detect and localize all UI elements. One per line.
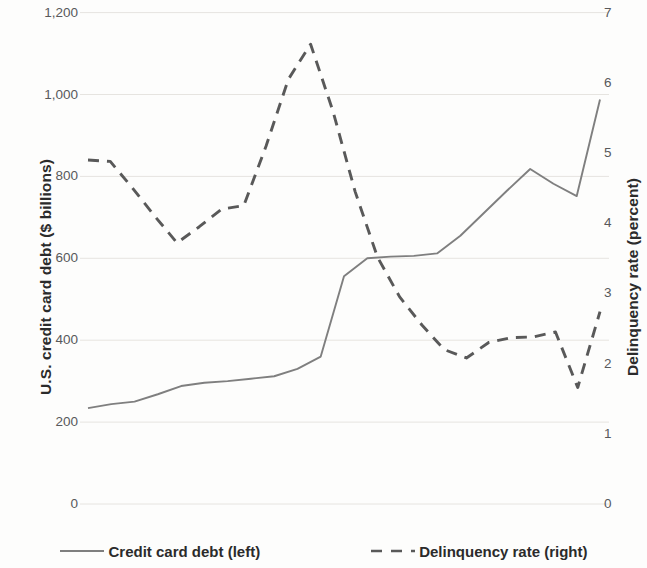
legend-dashed-line-icon <box>370 544 416 558</box>
chart-svg <box>0 0 647 568</box>
y-axis-right-tick-label: 4 <box>604 216 612 230</box>
plot-area <box>0 0 647 568</box>
y-axis-right-tick-label: 1 <box>604 427 612 441</box>
chart-figure: 02004006008001,0001,200 U.S. credit card… <box>0 0 647 568</box>
y-axis-left-tick-label: 0 <box>70 497 78 511</box>
y-axis-right-tick-label: 6 <box>604 76 612 90</box>
legend-item-delinquency-rate: Delinquency rate (right) <box>370 543 587 560</box>
legend-label-credit-card-debt: Credit card debt (left) <box>108 543 260 560</box>
y-axis-left-tick-label: 600 <box>55 251 78 265</box>
y-axis-right-tick-label: 0 <box>604 497 612 511</box>
y-axis-right-tick-label: 7 <box>604 6 612 20</box>
y-axis-left-tick-label: 400 <box>55 333 78 347</box>
y-axis-right-tick-label: 2 <box>604 357 612 371</box>
gridlines <box>80 13 609 504</box>
legend-label-delinquency-rate: Delinquency rate (right) <box>419 543 587 560</box>
y-axis-left-title: U.S. credit card debt ($ billions) <box>37 127 55 427</box>
y-axis-right-tick-label: 5 <box>604 146 612 160</box>
legend-solid-line-icon <box>59 544 105 558</box>
legend-item-credit-card-debt: Credit card debt (left) <box>59 543 260 560</box>
y-axis-left-tick-label: 1,000 <box>44 88 78 102</box>
y-axis-left-tick-label: 1,200 <box>44 6 78 20</box>
series-line <box>88 44 600 387</box>
y-axis-right-tick-label: 3 <box>604 286 612 300</box>
series-line <box>88 99 600 408</box>
y-axis-right-title: Delinquency rate (percent) <box>624 127 642 427</box>
series-layer <box>88 44 600 408</box>
y-axis-left-tick-label: 800 <box>55 169 78 183</box>
y-axis-left-tick-label: 200 <box>55 415 78 429</box>
chart-legend: Credit card debt (left) Delinquency rate… <box>0 534 647 568</box>
